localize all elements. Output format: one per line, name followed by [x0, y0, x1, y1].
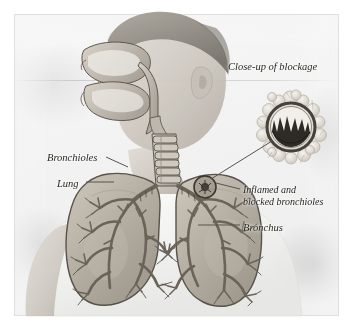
- closeup-bronchiole-cross-section: [257, 90, 327, 164]
- anatomy-artwork: [0, 0, 353, 330]
- leader-closeup-to-lung: [211, 141, 272, 179]
- respiratory-system-figure: Close-up of blockage Bronchioles Lung In…: [0, 0, 353, 330]
- label-bronchus: Bronchus: [243, 222, 283, 233]
- leader-bronchioles: [106, 157, 128, 167]
- trachea: [152, 134, 181, 186]
- label-bronchioles: Bronchioles: [47, 152, 97, 163]
- label-inflamed-line-1: Inflamed and: [243, 184, 296, 195]
- label-lung: Lung: [57, 178, 79, 189]
- inflamed-region-marker: [194, 176, 216, 198]
- label-inflamed-line-2: blocked bronchioles: [243, 196, 323, 207]
- label-closeup-of-blockage: Close-up of blockage: [228, 61, 317, 72]
- label-inflamed-blocked-bronchioles: Inflamed and blocked bronchioles: [243, 184, 343, 207]
